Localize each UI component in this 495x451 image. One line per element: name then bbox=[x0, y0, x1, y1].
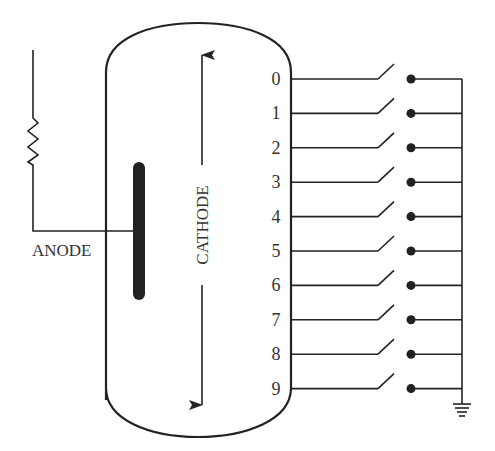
switch-icon[interactable] bbox=[378, 339, 394, 354]
switch-icon[interactable] bbox=[378, 202, 394, 217]
switch-icon[interactable] bbox=[378, 98, 394, 113]
cathode-digit-label: 2 bbox=[272, 138, 281, 158]
cathode-row: 0 bbox=[272, 64, 463, 89]
cathode-row: 5 bbox=[272, 236, 463, 261]
anode-plate bbox=[133, 162, 145, 300]
cathode-switch-rows: 0123456789 bbox=[272, 64, 463, 399]
cathode-digit-label: 3 bbox=[272, 172, 281, 192]
switch-icon[interactable] bbox=[378, 64, 394, 79]
switch-icon[interactable] bbox=[378, 167, 394, 182]
cathode-row: 6 bbox=[272, 270, 463, 295]
cathode-row: 3 bbox=[272, 167, 463, 192]
anode-lead-wire bbox=[28, 50, 135, 231]
cathode-digit-label: 7 bbox=[272, 310, 281, 330]
switch-icon[interactable] bbox=[378, 236, 394, 251]
cathode-row: 2 bbox=[272, 133, 463, 158]
anode-label: ANODE bbox=[32, 241, 92, 260]
switch-icon[interactable] bbox=[378, 305, 394, 320]
ground-icon bbox=[453, 404, 471, 416]
cathode-digit-label: 0 bbox=[272, 69, 281, 89]
nixie-tube-diagram: ANODE CATHODE 0123456789 bbox=[0, 0, 495, 451]
cathode-row: 7 bbox=[272, 305, 463, 330]
cathode-row: 1 bbox=[272, 98, 463, 123]
cathode-digit-label: 8 bbox=[272, 344, 281, 364]
cathode-row: 9 bbox=[272, 374, 463, 399]
cathode-label: CATHODE bbox=[193, 185, 212, 264]
switch-icon[interactable] bbox=[378, 374, 394, 389]
cathode-digit-label: 5 bbox=[272, 241, 281, 261]
switch-icon[interactable] bbox=[378, 270, 394, 285]
cathode-digit-label: 9 bbox=[272, 379, 281, 399]
cathode-digit-label: 1 bbox=[272, 103, 281, 123]
cathode-digit-label: 6 bbox=[272, 275, 281, 295]
cathode-row: 8 bbox=[272, 339, 463, 364]
cathode-digit-label: 4 bbox=[272, 207, 281, 227]
diagram-canvas: ANODE CATHODE 0123456789 bbox=[0, 0, 495, 451]
cathode-row: 4 bbox=[272, 202, 463, 227]
switch-icon[interactable] bbox=[378, 133, 394, 148]
